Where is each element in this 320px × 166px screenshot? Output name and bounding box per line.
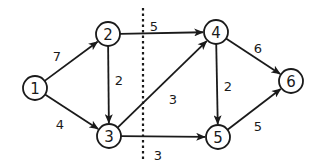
- edge-3-to-4: [118, 41, 207, 128]
- edge-2-to-3: [108, 46, 109, 123]
- node-label: 2: [103, 26, 113, 44]
- node-2: 2: [96, 22, 120, 46]
- edge-1-to-3: [45, 95, 98, 129]
- edge-weight-5-6: 5: [254, 119, 262, 134]
- node-3: 3: [97, 124, 121, 148]
- node-label: 5: [213, 129, 223, 147]
- node-1: 1: [23, 76, 47, 100]
- node-label: 1: [30, 80, 40, 98]
- node-4: 4: [204, 20, 228, 44]
- edge-weight-4-6: 6: [254, 41, 262, 56]
- node-label: 6: [286, 73, 296, 91]
- edge-weight-1-2: 7: [53, 49, 61, 64]
- edge-weight-4-5: 2: [224, 79, 232, 94]
- graph-diagram: 742533265 123456: [0, 0, 320, 166]
- edge-weight-2-4: 5: [150, 19, 158, 34]
- edge-2-to-4: [120, 32, 203, 34]
- edge-weight-2-3: 2: [115, 73, 123, 88]
- edges-group: [45, 32, 281, 137]
- node-6: 6: [279, 69, 303, 93]
- node-label: 3: [104, 128, 114, 146]
- node-label: 4: [211, 24, 221, 42]
- node-5: 5: [206, 125, 230, 149]
- edge-4-to-5: [216, 44, 218, 124]
- edge-weight-1-3: 4: [56, 117, 64, 132]
- edge-weight-3-4: 3: [169, 92, 177, 107]
- edge-3-to-5: [121, 136, 205, 137]
- edge-weight-3-5: 3: [154, 148, 162, 163]
- edge-labels-group: 742533265: [53, 19, 262, 163]
